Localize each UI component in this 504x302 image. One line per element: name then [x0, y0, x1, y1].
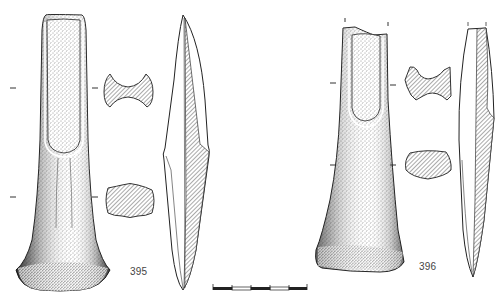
axe-396-cross-section-lower — [406, 151, 452, 179]
axe-395-front-view — [16, 15, 110, 292]
scale-bar — [213, 284, 307, 290]
axe-395-cross-section-upper — [104, 74, 153, 107]
axe-396 — [316, 18, 494, 277]
axe-396-side-profile — [459, 22, 494, 277]
object-number-396: 396 — [419, 261, 436, 272]
axe-395-cross-section-lower — [106, 184, 154, 218]
axe-396-front-view — [316, 27, 404, 272]
drawing-plate — [0, 0, 504, 302]
axe-395 — [10, 15, 209, 292]
object-number-395: 395 — [130, 266, 147, 277]
axe-395-side-profile — [163, 15, 209, 290]
axe-396-cross-section-upper — [405, 67, 451, 100]
